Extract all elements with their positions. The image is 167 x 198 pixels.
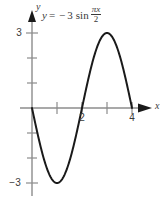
- y-axis-arrowhead: [28, 10, 36, 22]
- x-tick-label-4: 4: [126, 112, 138, 123]
- x-tick-label-2: 2: [76, 112, 88, 123]
- y-tick-label-neg3: −3: [5, 177, 25, 188]
- plot-canvas: [0, 0, 167, 198]
- graph-figure: y = − 3 sin πx 2 y: [0, 0, 167, 198]
- x-axis-label: x: [155, 100, 159, 111]
- y-axis-label: y: [36, 1, 40, 12]
- y-tick-label-3: 3: [13, 27, 25, 38]
- x-axis-arrowhead: [138, 104, 152, 113]
